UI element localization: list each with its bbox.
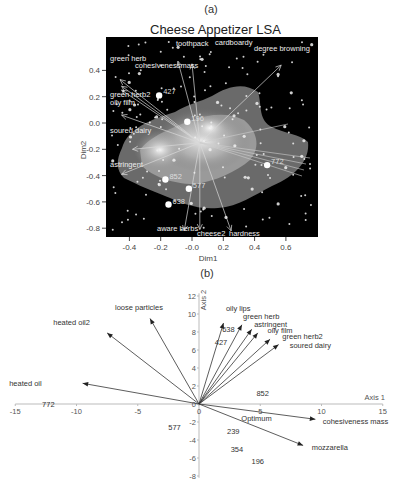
y-tick-label-b: 10 bbox=[188, 310, 196, 319]
arrowhead-icon bbox=[273, 345, 279, 350]
arrowhead-icon bbox=[310, 416, 316, 421]
sample-label-b: 638 bbox=[222, 325, 235, 334]
attribute-vector-b bbox=[83, 383, 199, 404]
attribute-vector-b bbox=[199, 333, 258, 404]
y-tick-label-b: -8 bbox=[189, 472, 196, 481]
sample-label-b: 196 bbox=[252, 457, 265, 466]
sample-label-b: 577 bbox=[168, 423, 181, 432]
vector-label-b: heated oil bbox=[9, 379, 42, 388]
y-tick-label-b: 8 bbox=[192, 328, 196, 337]
arrowhead-icon bbox=[107, 333, 113, 338]
sample-label-b: 427 bbox=[215, 338, 228, 347]
x-tick-label-b: -5 bbox=[134, 407, 141, 416]
sample-label-b: 239 bbox=[227, 427, 240, 436]
attribute-vector-b bbox=[199, 323, 224, 404]
y-tick-label-b: -2 bbox=[189, 418, 196, 427]
sample-label-b: 772 bbox=[42, 400, 55, 409]
y-tick-label-b: 12 bbox=[188, 292, 196, 301]
x-tick-label-b: -10 bbox=[71, 407, 82, 416]
optimum-label: Optimum bbox=[241, 414, 271, 423]
x-tick-label-b: 15 bbox=[379, 407, 387, 416]
y-tick-label-b: 2 bbox=[192, 382, 196, 391]
x-axis-title-b: Axis 1 bbox=[365, 393, 385, 402]
attribute-vector-b bbox=[107, 333, 199, 404]
arrowhead-icon bbox=[83, 382, 89, 387]
vector-label-b: loose particles bbox=[115, 303, 163, 312]
attribute-vector-b bbox=[199, 404, 303, 445]
y-tick-label-b: 4 bbox=[192, 364, 196, 373]
arrowhead-icon bbox=[297, 441, 303, 445]
y-tick-label-b: -4 bbox=[189, 436, 196, 445]
x-tick-label-b: 10 bbox=[317, 407, 325, 416]
vector-label-b: mozzarella bbox=[312, 443, 349, 452]
vector-label-b: soured dairy bbox=[290, 341, 332, 350]
vector-label-b: cohesiveness mass bbox=[323, 417, 389, 426]
y-tick-label-b: -6 bbox=[189, 454, 196, 463]
y-tick-label-b: 6 bbox=[192, 346, 196, 355]
chart-b-biplot: -15-10-5051015121086420-2-4-6-8Axis 1Axi… bbox=[0, 0, 406, 493]
y-axis-title-b: Axis 2 bbox=[199, 290, 208, 310]
sample-label-b: 354 bbox=[231, 445, 244, 454]
vector-label-b: heated oil2 bbox=[53, 318, 90, 327]
vector-label-b: green herb2 bbox=[282, 332, 322, 341]
x-tick-label-b: -15 bbox=[10, 407, 21, 416]
attribute-vector-b bbox=[199, 325, 242, 404]
x-tick-label-b: 0 bbox=[197, 407, 201, 416]
sample-label-b: 852 bbox=[256, 389, 269, 398]
arrowhead-icon bbox=[247, 329, 252, 335]
arrowhead-icon bbox=[150, 319, 155, 325]
